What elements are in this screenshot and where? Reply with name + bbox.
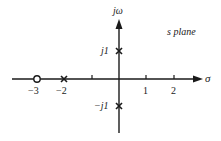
imag-tick-label-j1: j1 [101, 46, 109, 56]
s-plane-title-text: s plane [167, 26, 196, 37]
s-plane-title: s plane [167, 27, 196, 37]
tick-label-neg3: −3 [28, 86, 39, 96]
imaginary-axis [116, 19, 123, 133]
real-axis-label: σ [205, 73, 210, 84]
tick-label-neg2: −2 [56, 86, 67, 96]
tick-label-1: 1 [143, 86, 148, 96]
imaginary-axis-label: jω [113, 6, 123, 16]
tick-label-2: 2 [171, 86, 176, 96]
real-axis-arrow-icon [193, 76, 203, 83]
imaginary-axis-arrow-icon [116, 19, 123, 29]
imag-tick-label-neg-j1: −j1 [94, 101, 109, 111]
zero-marker-icon [34, 76, 40, 82]
s-plane-diagram: jω s plane σ −3 −2 1 2 j1 −j1 [0, 0, 221, 141]
pole-zero-plot [0, 0, 221, 141]
